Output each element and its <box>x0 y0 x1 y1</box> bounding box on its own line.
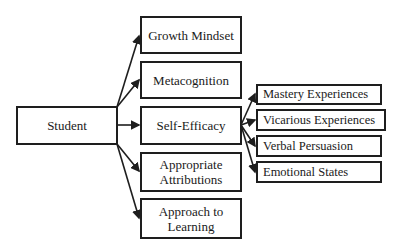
emotional-states-node: Emotional States <box>256 161 382 183</box>
appropriate-attributions-line-2: Attributions <box>160 172 223 187</box>
metacognition-node: Metacognition <box>140 61 242 99</box>
self-efficacy-label: Self-Efficacy <box>156 118 225 133</box>
vicarious-experiences-label: Vicarious Experiences <box>263 113 375 128</box>
emotional-states-label: Emotional States <box>263 165 348 180</box>
growth-mindset-node: Growth Mindset <box>140 16 242 54</box>
mastery-experiences-label: Mastery Experiences <box>263 87 368 102</box>
arrow-student-approach <box>117 144 139 218</box>
metacognition-label: Metacognition <box>153 73 229 88</box>
growth-mindset-label: Growth Mindset <box>148 28 234 43</box>
arrow-se-emotional <box>241 125 255 172</box>
verbal-persuasion-label: Verbal Persuasion <box>263 139 353 154</box>
approach-to-learning-line-1: Approach to <box>159 204 224 219</box>
self-efficacy-node: Self-Efficacy <box>140 106 242 145</box>
student-label: Student <box>47 118 87 133</box>
appropriate-attributions-line-1: Appropriate <box>160 157 223 172</box>
arrow-student-metacognition <box>117 80 139 107</box>
student-node: Student <box>16 106 118 145</box>
approach-to-learning-node: Approach to Learning <box>140 198 242 239</box>
vicarious-experiences-node: Vicarious Experiences <box>256 109 386 131</box>
mastery-experiences-node: Mastery Experiences <box>256 84 382 105</box>
arrow-student-growth-mindset <box>117 36 139 107</box>
arrow-se-verbal <box>241 125 255 146</box>
appropriate-attributions-node: Appropriate Attributions <box>140 152 242 192</box>
approach-to-learning-line-2: Learning <box>168 219 215 234</box>
verbal-persuasion-node: Verbal Persuasion <box>256 135 382 157</box>
